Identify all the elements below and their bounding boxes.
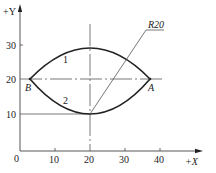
- x-axis-arrow-icon: [195, 149, 203, 153]
- arc-2-label: 2: [63, 95, 68, 106]
- point-b-label: B: [25, 82, 31, 93]
- arc-diagram: +Y +X 0 10 20 30 40 10 20 30 B A 1 2 R20: [0, 0, 216, 173]
- y-axis-arrow-icon: [18, 4, 22, 12]
- x-axis: [20, 148, 203, 153]
- origin-label: 0: [14, 153, 19, 164]
- x-axis-label: +X: [185, 156, 199, 167]
- y-axis-label: +Y: [3, 6, 16, 17]
- y-tick-30: 30: [6, 40, 16, 51]
- y-tick-20: 20: [6, 74, 16, 85]
- x-tick-10: 10: [49, 154, 59, 165]
- radius-leader-line: [90, 30, 146, 114]
- radius-label: R20: [147, 19, 164, 30]
- x-tick-20: 20: [84, 154, 94, 165]
- point-a-marker: [149, 78, 152, 81]
- x-tick-40: 40: [154, 154, 164, 165]
- arc-1-label: 1: [63, 54, 68, 65]
- point-a-label: A: [147, 82, 155, 93]
- point-b-marker: [29, 78, 32, 81]
- y-axis: [18, 4, 22, 151]
- y-tick-10: 10: [6, 109, 16, 120]
- x-tick-30: 30: [119, 154, 129, 165]
